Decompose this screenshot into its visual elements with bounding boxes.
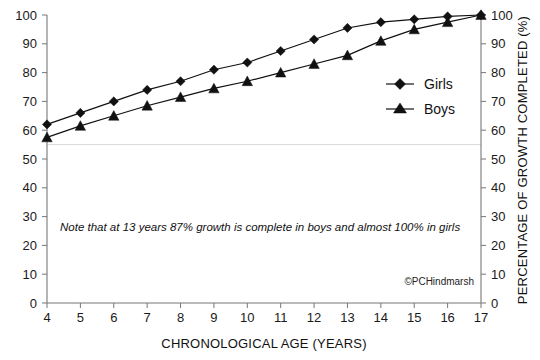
y-tick-label-right-70: 70: [491, 94, 505, 109]
y-tick-label-left-60: 60: [23, 123, 37, 138]
x-tick-label-16: 16: [440, 310, 454, 325]
growth-percentage-line-chart: 0102030405060708090100 01020304050607080…: [0, 0, 540, 360]
y-tick-label-left-40: 40: [23, 180, 37, 195]
x-tick-label-10: 10: [240, 310, 254, 325]
x-tick-label-15: 15: [407, 310, 421, 325]
legend-label-girls: Girls: [424, 76, 453, 92]
x-tick-label-13: 13: [340, 310, 354, 325]
x-tick-label-5: 5: [77, 310, 84, 325]
y-tick-label-right-50: 50: [491, 152, 505, 167]
y-tick-label-left-100: 100: [15, 8, 37, 23]
y-tick-label-right-20: 20: [491, 238, 505, 253]
x-tick-label-9: 9: [210, 310, 217, 325]
y-tick-label-left-80: 80: [23, 65, 37, 80]
y-tick-label-left-50: 50: [23, 152, 37, 167]
y-tick-label-right-80: 80: [491, 65, 505, 80]
annotation-growth-note: Note that at 13 years 87% growth is comp…: [60, 221, 460, 233]
y-tick-label-right-10: 10: [491, 267, 505, 282]
y-tick-label-right-0: 0: [491, 296, 498, 311]
y-tick-label-right-90: 90: [491, 36, 505, 51]
y-tick-label-left-90: 90: [23, 36, 37, 51]
x-tick-label-11: 11: [274, 310, 288, 325]
y-tick-label-left-20: 20: [23, 238, 37, 253]
x-tick-label-4: 4: [43, 310, 50, 325]
x-tick-label-14: 14: [374, 310, 388, 325]
x-tick-label-7: 7: [144, 310, 151, 325]
legend-label-boys: Boys: [424, 101, 455, 117]
y-tick-label-right-60: 60: [491, 123, 505, 138]
y-tick-label-right-100: 100: [491, 8, 513, 23]
annotation-credit: ©PCHindmarsh: [404, 276, 474, 287]
x-tick-label-17: 17: [474, 310, 488, 325]
y-axis-title: PERCENTAGE OF GROWTH COMPLETED (%): [515, 16, 530, 304]
chart-page: 0102030405060708090100 01020304050607080…: [0, 0, 540, 360]
y-tick-label-right-40: 40: [491, 180, 505, 195]
y-tick-label-left-30: 30: [23, 209, 37, 224]
x-tick-label-8: 8: [177, 310, 184, 325]
y-tick-label-right-30: 30: [491, 209, 505, 224]
y-tick-label-left-10: 10: [23, 267, 37, 282]
chart-background: [0, 0, 540, 360]
x-tick-label-6: 6: [110, 310, 117, 325]
x-tick-label-12: 12: [307, 310, 321, 325]
y-tick-label-left-70: 70: [23, 94, 37, 109]
y-tick-label-left-0: 0: [30, 296, 37, 311]
x-axis-title: CHRONOLOGICAL AGE (YEARS): [161, 336, 366, 351]
